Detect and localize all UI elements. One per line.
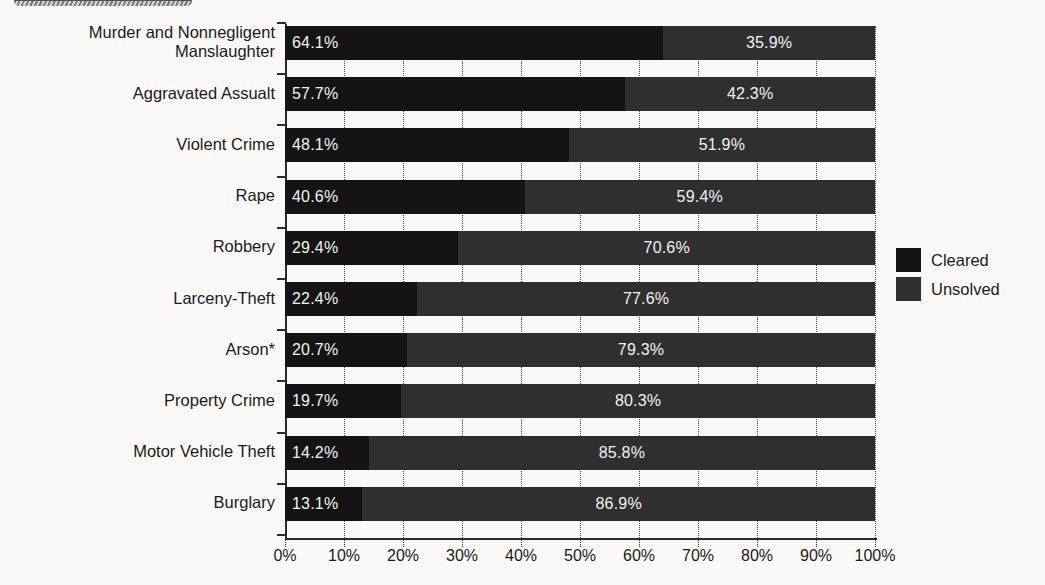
bar-segment-cleared[interactable]: 20.7% (285, 333, 407, 367)
bar-value-label-cleared: 40.6% (292, 188, 338, 206)
x-tick-label-60: 60% (623, 547, 655, 565)
x-tick-label-50: 50% (564, 547, 596, 565)
x-tick-label-90: 90% (800, 547, 832, 565)
bar-value-label-unsolved: 80.3% (615, 392, 661, 410)
bar-segment-unsolved[interactable]: 51.9% (569, 128, 875, 162)
bar-value-label-unsolved: 79.3% (618, 341, 664, 359)
legend-item-unsolved[interactable]: Unsolved (896, 277, 1000, 301)
category-label-4: Robbery (0, 237, 275, 256)
bar-segment-unsolved[interactable]: 77.6% (417, 282, 875, 316)
x-tick-60 (639, 540, 640, 547)
bar-row[interactable]: 48.1%51.9% (285, 128, 875, 162)
bar-segment-unsolved[interactable]: 86.9% (362, 487, 875, 521)
category-label-2: Violent Crime (0, 135, 275, 154)
category-label-3: Rape (0, 186, 275, 205)
bar-segment-cleared[interactable]: 29.4% (285, 231, 458, 265)
bar-value-label-cleared: 57.7% (292, 85, 338, 103)
category-label-7: Property Crime (0, 391, 275, 410)
x-tick-0 (285, 540, 286, 547)
bar-segment-unsolved[interactable]: 35.9% (663, 26, 875, 60)
bar-segment-cleared[interactable]: 57.7% (285, 77, 625, 111)
x-tick-100 (875, 540, 876, 547)
bar-value-label-unsolved: 51.9% (699, 136, 745, 154)
bar-segment-unsolved[interactable]: 80.3% (401, 384, 875, 418)
x-tick-label-20: 20% (387, 547, 419, 565)
x-tick-20 (403, 540, 404, 547)
x-tick-label-10: 10% (328, 547, 360, 565)
bar-row[interactable]: 14.2%85.8% (285, 436, 875, 470)
bar-value-label-unsolved: 86.9% (595, 495, 641, 513)
bar-row[interactable]: 13.1%86.9% (285, 487, 875, 521)
x-tick-label-80: 80% (741, 547, 773, 565)
bar-value-label-cleared: 48.1% (292, 136, 338, 154)
bar-value-label-unsolved: 77.6% (623, 290, 669, 308)
legend-label-cleared: Cleared (931, 251, 989, 270)
legend: ClearedUnsolved (896, 248, 1000, 301)
x-tick-40 (521, 540, 522, 547)
bar-segment-unsolved[interactable]: 42.3% (625, 77, 875, 111)
bar-segment-cleared[interactable]: 40.6% (285, 180, 525, 214)
title-banner-fragment (14, 0, 192, 6)
legend-swatch-cleared (896, 248, 921, 272)
x-tick-label-100: 100% (855, 547, 896, 565)
bar-row[interactable]: 20.7%79.3% (285, 333, 875, 367)
category-label-8: Motor Vehicle Theft (0, 442, 275, 461)
y-tick-0 (277, 22, 286, 24)
x-tick-label-0: 0% (273, 547, 296, 565)
category-label-0: Murder and Nonnegligent Manslaughter (0, 23, 275, 61)
x-tick-70 (698, 540, 699, 547)
plot-area: 64.1%35.9%57.7%42.3%48.1%51.9%40.6%59.4%… (285, 26, 875, 538)
x-tick-90 (816, 540, 817, 547)
chart-page: Murder and Nonnegligent ManslaughterAggr… (0, 0, 1045, 585)
bar-segment-cleared[interactable]: 19.7% (285, 384, 401, 418)
bar-value-label-unsolved: 85.8% (599, 444, 645, 462)
bar-segment-cleared[interactable]: 48.1% (285, 128, 569, 162)
bar-row[interactable]: 19.7%80.3% (285, 384, 875, 418)
bar-segment-cleared[interactable]: 22.4% (285, 282, 417, 316)
bar-value-label-unsolved: 42.3% (727, 85, 773, 103)
x-axis-line (285, 538, 877, 540)
x-tick-30 (462, 540, 463, 547)
bar-value-label-unsolved: 35.9% (746, 34, 792, 52)
category-label-9: Burglary (0, 493, 275, 512)
bar-value-label-cleared: 14.2% (292, 444, 338, 462)
bar-row[interactable]: 22.4%77.6% (285, 282, 875, 316)
bar-segment-cleared[interactable]: 13.1% (285, 487, 362, 521)
bar-row[interactable]: 57.7%42.3% (285, 77, 875, 111)
legend-label-unsolved: Unsolved (931, 280, 1000, 299)
bar-row[interactable]: 40.6%59.4% (285, 180, 875, 214)
x-tick-label-30: 30% (446, 547, 478, 565)
bar-value-label-unsolved: 59.4% (677, 188, 723, 206)
category-label-1: Aggravated Assualt (0, 84, 275, 103)
bar-value-label-cleared: 22.4% (292, 290, 338, 308)
bar-value-label-unsolved: 70.6% (644, 239, 690, 257)
bar-value-label-cleared: 64.1% (292, 34, 338, 52)
bar-row[interactable]: 29.4%70.6% (285, 231, 875, 265)
bar-segment-unsolved[interactable]: 59.4% (525, 180, 875, 214)
category-label-5: Larceny-Theft (0, 289, 275, 308)
bar-segment-unsolved[interactable]: 79.3% (407, 333, 875, 367)
legend-item-cleared[interactable]: Cleared (896, 248, 1000, 272)
bar-value-label-cleared: 29.4% (292, 239, 338, 257)
bar-value-label-cleared: 19.7% (292, 392, 338, 410)
bar-value-label-cleared: 13.1% (292, 495, 338, 513)
x-tick-label-40: 40% (505, 547, 537, 565)
x-tick-80 (757, 540, 758, 547)
bar-segment-cleared[interactable]: 14.2% (285, 436, 369, 470)
bar-segment-cleared[interactable]: 64.1% (285, 26, 663, 60)
x-tick-50 (580, 540, 581, 547)
x-tick-10 (344, 540, 345, 547)
x-tick-label-70: 70% (682, 547, 714, 565)
legend-swatch-unsolved (896, 277, 921, 301)
bar-value-label-cleared: 20.7% (292, 341, 338, 359)
bar-segment-unsolved[interactable]: 70.6% (458, 231, 875, 265)
bar-segment-unsolved[interactable]: 85.8% (369, 436, 875, 470)
gridline-100 (875, 26, 876, 538)
category-label-6: Arson* (0, 340, 275, 359)
bar-row[interactable]: 64.1%35.9% (285, 26, 875, 60)
